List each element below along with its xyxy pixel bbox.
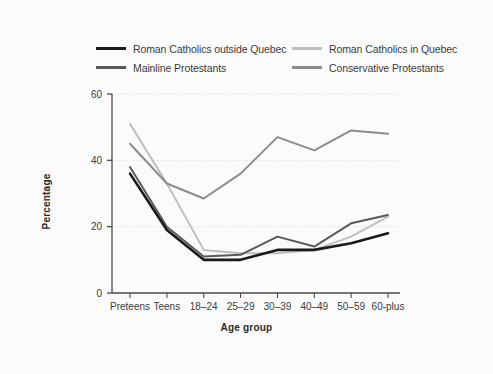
x-tick-label: 50–59 bbox=[337, 301, 365, 312]
x-tick-label: 25–29 bbox=[227, 301, 255, 312]
plot-area: 0204060 PreteensTeens18–2425–2930–3940–4… bbox=[0, 0, 493, 374]
y-tick-label: 20 bbox=[91, 221, 103, 232]
data-series-group bbox=[130, 124, 388, 260]
y-tick-label: 60 bbox=[91, 89, 103, 100]
x-tick-label: 40–49 bbox=[300, 301, 328, 312]
x-axis-ticks: PreteensTeens18–2425–2930–3940–4950–5960… bbox=[110, 293, 404, 312]
chart-figure: Roman Catholics outside Quebec Roman Cat… bbox=[0, 0, 493, 374]
x-axis-title: Age group bbox=[0, 322, 493, 333]
x-tick-label: 60-plus bbox=[372, 301, 405, 312]
y-tick-label: 40 bbox=[91, 155, 103, 166]
y-axis-title: Percentage bbox=[41, 152, 52, 252]
series-line bbox=[130, 124, 388, 253]
axis-lines bbox=[112, 94, 400, 293]
x-tick-label: Preteens bbox=[110, 301, 150, 312]
x-tick-label: Teens bbox=[154, 301, 181, 312]
x-tick-label: 18–24 bbox=[190, 301, 218, 312]
y-tick-label: 0 bbox=[96, 288, 102, 299]
y-axis-ticks: 0204060 bbox=[91, 89, 112, 299]
x-tick-label: 30–39 bbox=[264, 301, 292, 312]
